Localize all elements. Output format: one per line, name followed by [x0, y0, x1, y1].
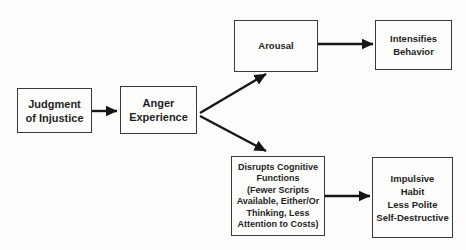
- edge-anger-to-arousal: [200, 74, 266, 113]
- node-intensifies-behavior: Intensifies Behavior: [375, 20, 452, 70]
- anger-flowchart: Judgment of Injustice Anger Experience A…: [0, 0, 466, 250]
- node-anger-experience: Anger Experience: [120, 86, 197, 134]
- edge-anger-to-disrupts: [200, 116, 266, 151]
- node-judgment-of-injustice: Judgment of Injustice: [17, 88, 92, 133]
- node-disrupts-cognitive-functions: Disrupts Cognitive Functions (Fewer Scri…: [231, 156, 325, 236]
- node-arousal: Arousal: [234, 20, 318, 72]
- node-impulsive-outcomes: Impulsive Habit Less Polite Self-Destruc…: [372, 157, 453, 238]
